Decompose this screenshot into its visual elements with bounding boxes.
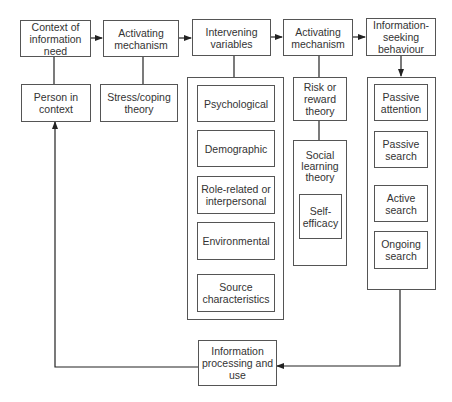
activating-mechanism-1-box: Activating mechanism xyxy=(103,20,179,57)
activating-mechanism-2-label: Activating mechanism xyxy=(291,26,345,50)
person-in-context-label: Person in context xyxy=(34,91,78,115)
passive-attention-label: Passive attention xyxy=(381,91,421,115)
environmental-label: Environmental xyxy=(202,235,269,247)
self-efficacy-label: Self- efficacy xyxy=(303,205,338,229)
activating-mechanism-2-box: Activating mechanism xyxy=(283,19,353,56)
passive-search-box: Passive search xyxy=(374,131,428,168)
social-learning-theory-label: Social learning theory xyxy=(301,149,338,183)
risk-reward-theory-label: Risk or reward theory xyxy=(304,81,337,117)
role-related-box: Role-related or interpersonal xyxy=(197,176,275,214)
context-of-information-need-box: Context of information need xyxy=(20,20,91,57)
information-seeking-behaviour-label: Information- seeking behaviour xyxy=(373,19,429,55)
information-processing-and-use-box: Information processing and use xyxy=(198,340,277,386)
activating-mechanism-1-label: Activating mechanism xyxy=(114,27,168,51)
stress-coping-theory-label: Stress/coping theory xyxy=(107,91,171,115)
demographic-box: Demographic xyxy=(197,130,275,167)
environmental-box: Environmental xyxy=(197,222,275,260)
ongoing-search-box: Ongoing search xyxy=(374,231,428,269)
role-related-label: Role-related or interpersonal xyxy=(201,183,270,207)
passive-search-label: Passive search xyxy=(383,138,420,162)
active-search-box: Active search xyxy=(374,185,428,222)
intervening-variables-box: Intervening variables xyxy=(192,19,271,56)
information-seeking-behaviour-box: Information- seeking behaviour xyxy=(366,18,436,56)
ongoing-search-label: Ongoing search xyxy=(381,238,421,262)
source-characteristics-label: Source characteristics xyxy=(202,281,269,305)
psychological-label: Psychological xyxy=(204,98,268,110)
social-learning-theory-label-wrap: Social learning theory xyxy=(293,150,347,183)
demographic-label: Demographic xyxy=(205,143,267,155)
active-search-label: Active search xyxy=(385,192,417,216)
passive-attention-box: Passive attention xyxy=(374,84,428,121)
source-characteristics-box: Source characteristics xyxy=(197,274,275,312)
intervening-variables-label: Intervening variables xyxy=(206,26,258,50)
context-label: Context of information need xyxy=(30,21,82,57)
risk-reward-theory-box: Risk or reward theory xyxy=(293,77,347,121)
person-in-context-box: Person in context xyxy=(21,84,91,122)
psychological-box: Psychological xyxy=(197,85,275,122)
self-efficacy-box: Self- efficacy xyxy=(299,194,342,239)
information-processing-and-use-label: Information processing and use xyxy=(202,345,273,381)
stress-coping-theory-box: Stress/coping theory xyxy=(100,84,178,122)
